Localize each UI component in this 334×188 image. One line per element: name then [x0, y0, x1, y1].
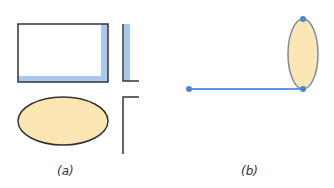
panel-b-figure — [186, 16, 318, 92]
panel-b-label: (b) — [241, 164, 258, 178]
shadowed-rectangle — [18, 24, 108, 82]
top-endpoint-dot — [300, 16, 306, 22]
diagram-canvas — [0, 0, 334, 188]
inverted-l-corner — [123, 97, 139, 154]
beige-ellipse — [18, 97, 108, 145]
panel-a-figure — [18, 24, 139, 154]
bottom-junction-dot — [300, 86, 306, 92]
left-endpoint-dot — [186, 86, 192, 92]
vertical-ellipse — [288, 19, 318, 89]
l-corner-shape — [123, 24, 139, 81]
panel-a-label: (a) — [57, 164, 74, 178]
